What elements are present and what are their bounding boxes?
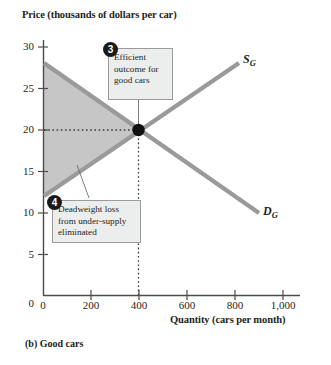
y-tick-label-20: 20 [8, 123, 34, 135]
x-tick-label-1000: 1,000 [261, 299, 305, 311]
callout-3-line-3: good cars [114, 75, 168, 87]
y-tick-label-30: 30 [8, 40, 34, 52]
callout-4-line-3: eliminated [58, 227, 136, 239]
x-tick-label-200: 200 [69, 299, 113, 311]
figure-panel: Price (thousands of dollars per car) [0, 0, 331, 365]
demand-curve-label-text: D [263, 204, 272, 218]
panel-caption: (b) Good cars [25, 338, 83, 349]
x-axis-title: Quantity (cars per month) [170, 314, 285, 325]
supply-curve-label-text: S [243, 52, 250, 66]
x-tick-label-800: 800 [213, 299, 257, 311]
callout-efficient-outcome: Efficient outcome for good cars [108, 48, 173, 100]
supply-curve-label-subscript: G [250, 58, 256, 68]
y-tick-label-15: 15 [8, 165, 34, 177]
y-tick-label-10: 10 [8, 206, 34, 218]
y-tick-label-25: 25 [8, 82, 34, 94]
demand-curve-label: DG [263, 204, 278, 220]
callout-3-badge: 3 [103, 42, 118, 57]
callout-4-badge: 4 [47, 195, 62, 210]
demand-curve-label-subscript: G [272, 210, 278, 220]
supply-curve-label: SG [243, 52, 256, 68]
callout-3-line-1: Efficient [114, 52, 168, 64]
x-tick-label-400: 400 [117, 299, 161, 311]
callout-3-line-2: outcome for [114, 64, 168, 76]
x-tick-label-0: 0 [21, 299, 65, 311]
y-tick-label-5: 5 [8, 248, 34, 260]
callout-4-line-1: Deadweight loss [58, 204, 136, 216]
callout-4-line-2: from under-supply [58, 216, 136, 228]
x-tick-label-600: 600 [165, 299, 209, 311]
equilibrium-point [132, 124, 144, 136]
callout-deadweight-loss: Deadweight loss from under-supply elimin… [52, 200, 141, 243]
